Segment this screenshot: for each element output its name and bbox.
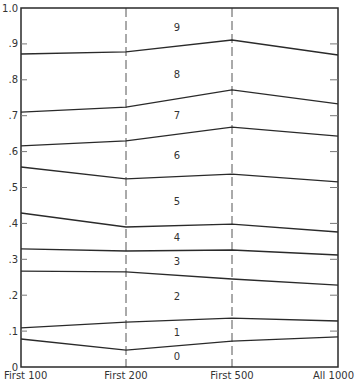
vertical-dashed-lines bbox=[126, 8, 232, 367]
boundary-line bbox=[21, 167, 338, 182]
boundary-line bbox=[21, 249, 338, 255]
band-label: 1 bbox=[174, 327, 180, 338]
x-tick-label: First 200 bbox=[104, 370, 147, 381]
y-tick-label: .4 bbox=[8, 218, 18, 229]
y-tick-label: 1.0 bbox=[2, 3, 18, 14]
band-label: 8 bbox=[174, 69, 180, 80]
y-tick-label: .6 bbox=[8, 146, 18, 157]
band-label: 0 bbox=[174, 351, 180, 362]
y-axis-labels: 0.1.2.3.4.5.6.7.8.91.0 bbox=[2, 3, 18, 373]
boundary-line bbox=[21, 40, 338, 55]
x-tick-label: All 1000 bbox=[313, 370, 354, 381]
band-label: 3 bbox=[174, 256, 180, 267]
x-tick-label: First 100 bbox=[4, 370, 47, 381]
y-tick-label: .7 bbox=[8, 110, 18, 121]
boundary-line bbox=[21, 271, 338, 285]
boundary-line bbox=[21, 127, 338, 146]
y-tick-label: .9 bbox=[8, 38, 18, 49]
x-tick-label: First 500 bbox=[210, 370, 253, 381]
band-label: 7 bbox=[174, 110, 180, 121]
y-tick-label: .8 bbox=[8, 74, 18, 85]
band-label: 9 bbox=[174, 22, 180, 33]
boundary-line bbox=[21, 213, 338, 232]
x-axis-labels: First 100First 200First 500All 1000 bbox=[4, 370, 354, 381]
band-labels: 0123456789 bbox=[174, 22, 180, 362]
stacked-band-chart: 0.1.2.3.4.5.6.7.8.91.0 0123456789 First … bbox=[0, 0, 355, 388]
y-tick-label: .2 bbox=[8, 290, 18, 301]
y-tick-label: .5 bbox=[8, 182, 18, 193]
y-tick-label: .1 bbox=[8, 326, 18, 337]
boundary-line bbox=[21, 337, 338, 350]
y-tick-label: .3 bbox=[8, 254, 18, 265]
band-label: 2 bbox=[174, 291, 180, 302]
band-label: 6 bbox=[174, 150, 180, 161]
boundary-line bbox=[21, 90, 338, 112]
band-label: 4 bbox=[174, 232, 180, 243]
plot-frame bbox=[21, 8, 338, 367]
band-label: 5 bbox=[174, 196, 180, 207]
y-axis-ticks bbox=[21, 44, 338, 331]
